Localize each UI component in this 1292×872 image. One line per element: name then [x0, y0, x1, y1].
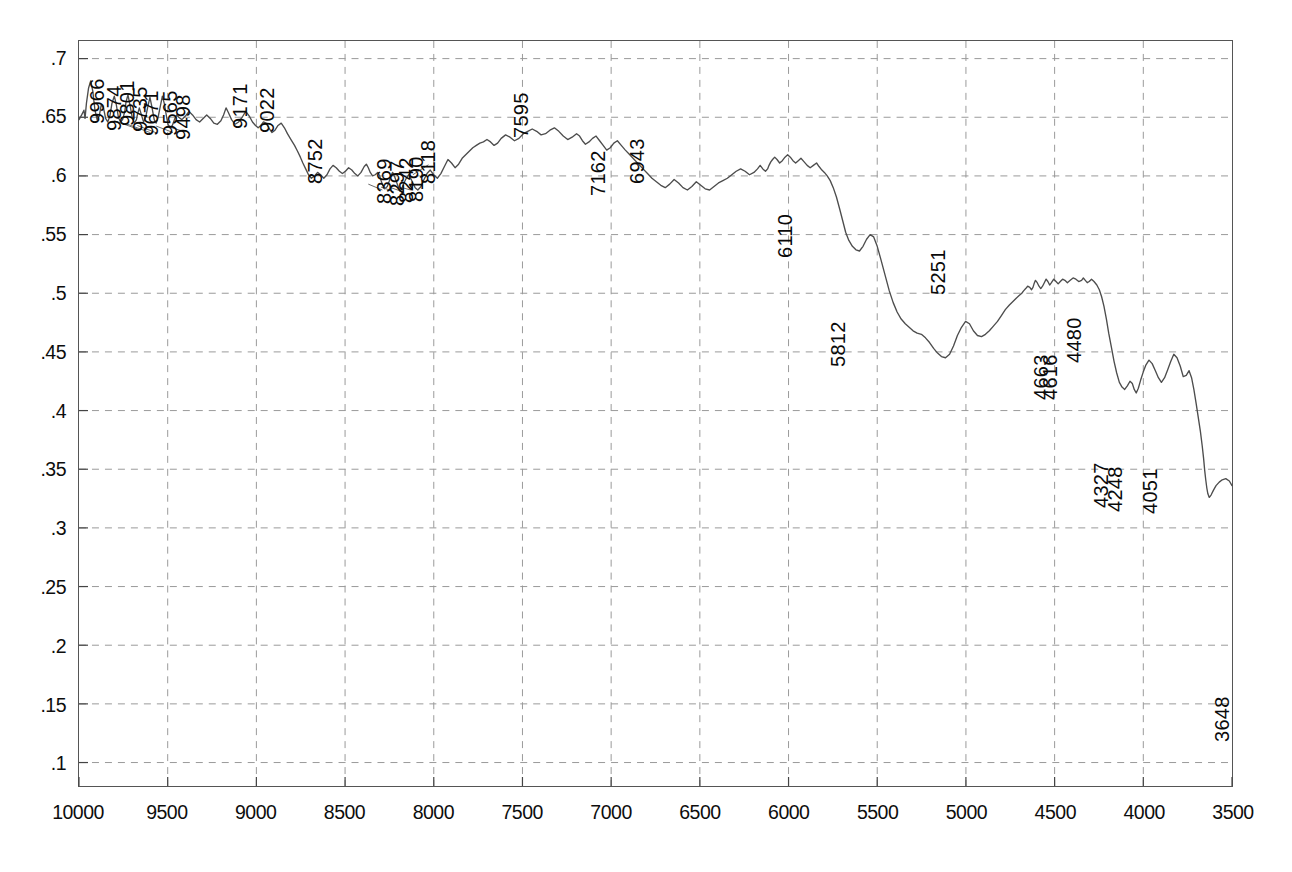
peak-label-6110: 6110: [774, 214, 797, 258]
y-tick-label: .7: [20, 46, 66, 69]
y-tick-label: .2: [20, 634, 66, 657]
peak-label-4616: 4616: [1039, 355, 1062, 401]
spectrum-figure: .7.65.6.55.5.45.4.35.3.25.2.15.1 1000095…: [0, 0, 1292, 872]
x-tick-label: 5500: [857, 801, 898, 824]
y-tick-label: .55: [20, 223, 66, 246]
peak-label-9171: 9171: [229, 83, 252, 129]
y-tick-label: .6: [20, 164, 66, 187]
peak-label-6943: 6943: [626, 139, 649, 185]
x-tick-label: 4000: [1123, 801, 1164, 824]
y-tick-label: .25: [20, 576, 66, 599]
x-tick-label: 4500: [1035, 801, 1076, 824]
y-tick-label: .35: [20, 458, 66, 481]
peak-label-9498: 9498: [172, 94, 195, 140]
y-tick-label: .3: [20, 517, 66, 540]
peak-label-5812: 5812: [827, 321, 850, 367]
x-tick-label: 7000: [590, 801, 631, 824]
x-tick-label: 6500: [679, 801, 720, 824]
x-tick-label: 7500: [502, 801, 543, 824]
peak-label-8752: 8752: [304, 139, 327, 185]
peak-label-7162: 7162: [587, 150, 610, 196]
x-tick-label: 10000: [52, 801, 104, 824]
x-tick-label: 3500: [1212, 801, 1253, 824]
peak-label-9022: 9022: [256, 87, 279, 133]
peak-label-3648: 3648: [1211, 697, 1234, 743]
x-tick-label: 9000: [235, 801, 276, 824]
y-tick-label: .45: [20, 340, 66, 363]
x-tick-label: 8000: [413, 801, 454, 824]
x-tick-label: 9500: [146, 801, 187, 824]
peak-annotation-layer: 9966987498019735967195659498917190228752…: [78, 40, 1233, 787]
y-tick-label: .65: [20, 105, 66, 128]
peak-label-8118: 8118: [417, 140, 440, 184]
y-tick-label: .15: [20, 693, 66, 716]
peak-label-4248: 4248: [1104, 466, 1127, 512]
y-tick-label: .1: [20, 752, 66, 775]
peak-label-4480: 4480: [1063, 317, 1086, 363]
peak-label-4051: 4051: [1139, 469, 1162, 515]
y-tick-label: .4: [20, 399, 66, 422]
x-tick-label: 8500: [324, 801, 365, 824]
peak-label-5251: 5251: [927, 249, 950, 295]
peak-label-7595: 7595: [510, 92, 533, 138]
x-tick-label: 5000: [946, 801, 987, 824]
y-tick-label: .5: [20, 281, 66, 304]
x-tick-label: 6000: [768, 801, 809, 824]
